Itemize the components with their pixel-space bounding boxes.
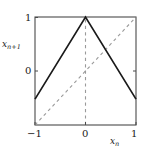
x-tick-label-0: 0 <box>82 129 88 139</box>
x-axis-label: xn <box>110 137 119 147</box>
y-tick-label-0: 0 <box>25 66 31 76</box>
y-tick-label-1: 1 <box>25 13 31 23</box>
x-tick-label-1: 1 <box>131 129 137 139</box>
tent-map-figure: xn+1 xn 1 0 −1 0 1 <box>0 0 154 152</box>
x-tick-label-minus-1: −1 <box>27 129 42 139</box>
x-axis-label-subscript: n <box>115 140 119 148</box>
y-axis-label: xn+1 <box>2 40 21 50</box>
y-axis-label-subscript: n+1 <box>7 43 21 51</box>
